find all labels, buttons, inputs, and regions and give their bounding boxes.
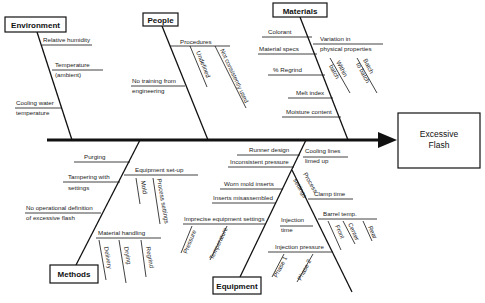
cause-no-operational-definition: No operational definition — [26, 204, 93, 211]
cause-material-handling: Material handling — [98, 229, 146, 236]
cause-phase-1: Phase 1 — [272, 255, 289, 279]
cause-delivery: Delivery — [103, 246, 114, 270]
cause-procedures: Procedures — [180, 38, 212, 45]
cause-moisture: Moisture content — [286, 108, 332, 115]
cause-colorant: Colorant — [268, 28, 292, 35]
category-people: People Procedures Undefined Not consiste… — [131, 13, 251, 140]
category-materials: Materials Colorant Material specs Variat… — [258, 3, 383, 140]
cause-worn-mold-inserts: Worn mold inserts — [224, 180, 274, 187]
cause-temperature-equip: Temperature — [208, 225, 229, 260]
cause-center: Center — [347, 222, 361, 242]
cause-relative-humidity: Relative humidity — [43, 36, 91, 43]
cause-tampering-2: settings — [68, 184, 89, 191]
cause-regrind: % Regrind — [273, 66, 302, 73]
cause-drying: Drying — [123, 246, 133, 265]
cause-melt-index: Melt index — [296, 89, 325, 96]
category-environment: Environment Relative humidity Temperatur… — [5, 17, 103, 140]
cause-equipment-setup: Equipment set-up — [135, 166, 184, 173]
cause-runner-design: Runner design — [249, 146, 290, 153]
cause-mold: Mold — [140, 180, 149, 195]
cause-no-training: No training from — [132, 77, 176, 84]
equipment-label: Equipment — [216, 282, 258, 291]
cause-method-regrind: Regrind — [145, 246, 156, 269]
cause-variation-2: physical properties — [320, 45, 372, 52]
cause-imprecise-settings: Imprecise equipment settings — [184, 215, 264, 222]
cause-cooling-water: Cooling water — [16, 99, 54, 106]
cause-cooling-water-2: temperature — [16, 109, 50, 116]
cause-clamp-time: Clamp time — [314, 190, 346, 197]
cause-purging: Purging — [84, 153, 106, 160]
effect-box: Excessive Flash — [398, 113, 480, 168]
cause-front: Front — [334, 224, 346, 240]
cause-rear: Rear — [367, 225, 379, 240]
people-label: People — [147, 16, 174, 25]
cause-inconsistent-pressure: Inconsistent pressure — [230, 158, 289, 165]
methods-label: Methods — [58, 270, 91, 279]
category-equipment: Equipment Runner design Inconsistent pre… — [181, 140, 379, 294]
cause-temperature-2: (ambient) — [55, 71, 81, 78]
cause-no-training-2: engineering — [132, 87, 165, 94]
cause-temperature: Temperature — [55, 61, 90, 68]
cause-no-operational-definition-2: of excessive flash — [26, 214, 75, 221]
cause-cooling-lines-2: limed up — [305, 157, 329, 164]
arrowhead-icon — [378, 132, 397, 148]
cause-injection-pressure: Injection pressure — [275, 243, 324, 250]
cause-process-settings: Process settings — [156, 178, 171, 224]
cause-injection-time: Injection — [281, 216, 305, 223]
category-methods: Methods Purging Tampering with settings … — [25, 140, 198, 283]
environment-label: Environment — [11, 21, 60, 30]
effect-label-2: Flash — [429, 140, 450, 150]
effect-label-1: Excessive — [420, 129, 459, 139]
cause-injection-time-2: time — [281, 226, 293, 233]
cause-tampering: Tampering with — [68, 173, 110, 180]
cause-phase-2: Phase 2 — [296, 258, 313, 282]
cause-not-consistently-used: Not consistently used — [219, 47, 250, 104]
cause-pressure: Pressure — [181, 228, 197, 254]
cause-material-specs: Material specs — [259, 45, 299, 52]
cause-cooling-lines: Cooling lines — [305, 147, 340, 154]
cause-barrel-temp: Barrel temp. — [323, 210, 357, 217]
cause-inserts-misassembled: Inserts misassembled — [213, 194, 273, 201]
cause-variation: Variation in — [320, 35, 351, 42]
fishbone-diagram: Excessive Flash Environment Relative hum… — [0, 0, 485, 303]
materials-label: Materials — [283, 7, 318, 16]
